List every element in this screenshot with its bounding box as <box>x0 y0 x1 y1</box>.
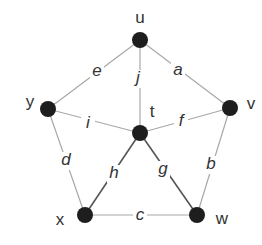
node-v <box>222 100 238 116</box>
graph-svg: abcdefghij uvwxyt <box>0 0 262 245</box>
node-label-t: t <box>150 102 155 121</box>
node-t <box>132 125 148 141</box>
edge-label-a: a <box>173 60 182 79</box>
graph-diagram: abcdefghij uvwxyt <box>0 0 262 245</box>
node-label-w: w <box>215 209 229 228</box>
node-label-v: v <box>247 94 256 113</box>
edge-label-e: e <box>92 61 101 80</box>
node-w <box>189 207 205 223</box>
nodes-layer <box>40 32 238 223</box>
node-x <box>77 207 93 223</box>
edge-label-b: b <box>206 154 215 173</box>
edge-label-g: g <box>158 159 168 178</box>
node-label-x: x <box>56 210 65 229</box>
edge-labels-layer: abcdefghij <box>59 60 218 225</box>
node-label-y: y <box>26 92 35 111</box>
node-label-u: u <box>135 8 144 27</box>
node-y <box>40 101 56 117</box>
node-u <box>132 32 148 48</box>
edge-label-c: c <box>136 205 145 224</box>
edge-label-h: h <box>109 163 118 182</box>
edge-label-d: d <box>61 150 71 169</box>
